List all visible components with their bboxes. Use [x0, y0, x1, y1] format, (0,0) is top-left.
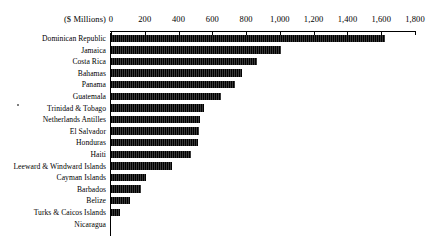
chart-row: Costa Rica	[0, 56, 446, 68]
x-tick-label: 1,200	[304, 14, 324, 24]
category-label: Barbados	[77, 185, 106, 194]
category-label: Honduras	[76, 138, 106, 147]
bar	[111, 104, 204, 112]
x-tick-label: 1,000	[270, 14, 290, 24]
bar-chart: ($ Millions) 02004006008001,0001,2001,40…	[0, 0, 446, 249]
chart-row: Turks & Caicos Islands	[0, 207, 446, 219]
x-tick-mark	[415, 31, 416, 35]
category-label: Belize	[86, 196, 106, 205]
x-tick-mark	[280, 31, 281, 35]
chart-row: Jamaica	[0, 45, 446, 57]
x-tick-label: 400	[172, 14, 185, 24]
chart-row: Nicaragua	[0, 219, 446, 231]
category-label: Guatemala	[73, 92, 106, 101]
x-axis-line	[110, 31, 415, 32]
chart-row: El Salvador	[0, 126, 446, 138]
bar	[111, 69, 242, 77]
category-label: Panama	[82, 80, 106, 89]
chart-row: Belize	[0, 195, 446, 207]
chart-row: Netherlands Antilles	[0, 114, 446, 126]
x-tick-mark	[145, 31, 146, 35]
category-label: El Salvador	[70, 127, 106, 136]
bar	[111, 151, 191, 159]
x-tick-mark	[347, 31, 348, 35]
bar	[111, 162, 172, 170]
chart-row: Cayman Islands	[0, 172, 446, 184]
chart-row: Panama	[0, 79, 446, 91]
category-label: Cayman Islands	[57, 173, 106, 182]
category-label: Jamaica	[81, 46, 106, 55]
bar	[111, 197, 130, 205]
chart-row: Leeward & Windward Islands	[0, 161, 446, 173]
category-label: Nicaragua	[74, 220, 106, 229]
chart-row: Honduras	[0, 137, 446, 149]
bar	[111, 209, 120, 217]
bar	[111, 185, 141, 193]
category-label: Turks & Caicos Islands	[34, 208, 106, 217]
x-tick-mark	[179, 31, 180, 35]
scan-artifact-dot	[17, 104, 19, 106]
x-tick-label: 1,800	[405, 14, 425, 24]
category-label: Trinidad & Tobago	[47, 104, 106, 113]
chart-row: Trinidad & Tobago	[0, 103, 446, 115]
x-tick-label: 1,600	[371, 14, 391, 24]
bar	[111, 127, 199, 135]
x-tick-label: 600	[206, 14, 219, 24]
bar	[111, 139, 198, 147]
category-label: Dominican Republic	[42, 34, 106, 43]
bar	[111, 35, 385, 43]
axis-header: ($ Millions) 02004006008001,0001,2001,40…	[0, 14, 446, 28]
x-tick-mark	[212, 31, 213, 35]
category-label: Netherlands Antilles	[43, 115, 106, 124]
x-tick-label: 200	[138, 14, 151, 24]
plot-area: Dominican RepublicJamaicaCosta RicaBaham…	[0, 33, 446, 238]
bar	[111, 174, 146, 182]
x-tick-mark	[111, 31, 112, 35]
x-tick-label: 0	[109, 14, 113, 24]
category-label: Bahamas	[78, 69, 106, 78]
x-tick-mark	[246, 31, 247, 35]
x-tick-label: 800	[240, 14, 253, 24]
chart-row: Haiti	[0, 149, 446, 161]
axis-unit-label: ($ Millions)	[64, 14, 106, 24]
category-label: Costa Rica	[72, 57, 106, 66]
category-label: Haiti	[91, 150, 106, 159]
chart-row: Dominican Republic	[0, 33, 446, 45]
chart-row: Bahamas	[0, 68, 446, 80]
chart-row: Barbados	[0, 184, 446, 196]
bar	[111, 93, 221, 101]
category-label: Leeward & Windward Islands	[13, 162, 106, 171]
x-tick-mark	[314, 31, 315, 35]
x-tick-mark	[381, 31, 382, 35]
bar	[111, 58, 257, 66]
bar	[111, 46, 281, 54]
bar	[111, 81, 235, 89]
bar	[111, 116, 200, 124]
x-tick-label: 1,400	[338, 14, 358, 24]
chart-row: Guatemala	[0, 91, 446, 103]
